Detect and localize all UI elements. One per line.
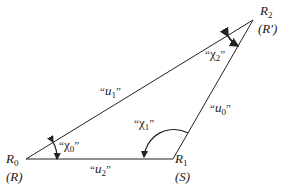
triangle-diagram: [0, 0, 286, 195]
vertex-label-r1: R1: [175, 152, 187, 168]
vertex-label-r2: R2: [260, 4, 272, 20]
side-label-u0: “u0”: [210, 101, 231, 117]
side-label-u1: “u1”: [100, 84, 121, 100]
angle-label-chi1: “χ1”: [134, 116, 154, 132]
side-label-u2: “u2”: [90, 162, 111, 178]
vertex-alias-r0: (R): [6, 170, 23, 183]
vertex-label-r0: R0: [6, 152, 18, 168]
angle-label-chi0: “χ0”: [59, 138, 79, 154]
side-u0: [173, 20, 253, 159]
vertex-alias-r1: (S): [175, 170, 190, 183]
angle-label-chi2: “χ2”: [205, 47, 225, 63]
angle-arc-chi0: [53, 142, 57, 159]
vertex-alias-r2: (R′): [258, 22, 277, 35]
angle-arc-chi2: [228, 36, 238, 46]
